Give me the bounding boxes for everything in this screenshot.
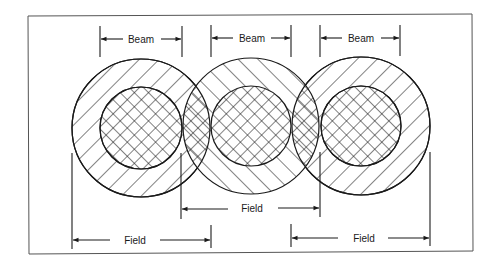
field-label-3: Field bbox=[353, 233, 375, 244]
beam-label-3: Beam bbox=[348, 33, 374, 44]
beam-label-1: Beam bbox=[128, 34, 154, 45]
field-label-1: Field bbox=[124, 235, 146, 246]
beam-label-2: Beam bbox=[239, 33, 265, 44]
field-label-2: Field bbox=[241, 203, 263, 214]
beam-field-diagram: Beam Beam Beam Field Field Field bbox=[0, 0, 497, 267]
